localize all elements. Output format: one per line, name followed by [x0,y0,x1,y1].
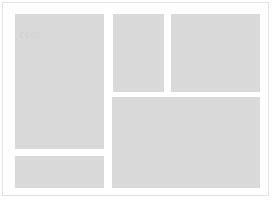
secondary-content-placeholder[interactable] [113,14,164,92]
primary-content-placeholder[interactable]: EDIT [15,14,104,149]
feature-content-placeholder[interactable] [112,97,260,188]
skeleton-canvas: EDIT [3,3,268,195]
primary-placeholder-ghost-label: EDIT [19,30,42,40]
footer-content-placeholder[interactable] [15,156,104,188]
tertiary-content-placeholder[interactable] [171,14,260,92]
page-frame: EDIT [2,2,269,196]
